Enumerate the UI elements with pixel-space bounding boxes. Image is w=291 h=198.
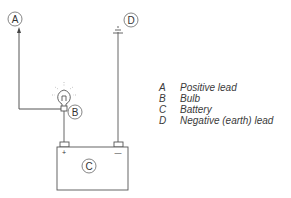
legend-item: B Bulb	[159, 93, 273, 104]
legend-text: Negative (earth) lead	[180, 115, 273, 126]
label-a: A	[12, 14, 19, 25]
legend-text: Battery	[180, 104, 212, 115]
label-c-marker: C	[82, 159, 96, 173]
label-d: D	[127, 15, 134, 26]
legend-text: Positive lead	[180, 82, 237, 93]
label-a-marker: A	[8, 12, 22, 26]
legend: A Positive lead B Bulb C Battery D Negat…	[159, 82, 273, 126]
legend-item: A Positive lead	[159, 82, 273, 93]
label-d-marker: D	[124, 13, 138, 27]
label-c: C	[85, 161, 92, 172]
positive-lead	[19, 31, 62, 109]
label-b: B	[72, 107, 79, 118]
legend-text: Bulb	[180, 93, 200, 104]
label-b-marker: B	[68, 105, 82, 119]
legend-key: B	[159, 93, 180, 104]
negative-terminal-label: —	[115, 149, 122, 156]
legend-item: D Negative (earth) lead	[159, 115, 273, 126]
legend-item: C Battery	[159, 104, 273, 115]
positive-terminal-label: +	[62, 149, 66, 156]
legend-key: D	[159, 115, 180, 126]
legend-key: C	[159, 104, 180, 115]
legend-key: A	[159, 82, 180, 93]
arrow-up-icon	[17, 27, 21, 33]
